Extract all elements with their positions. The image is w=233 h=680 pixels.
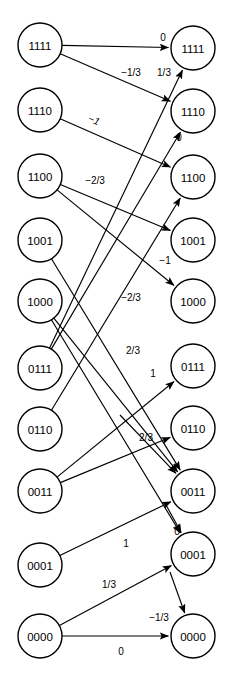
node-r-0111[interactable]: 0111: [171, 344, 215, 388]
edge-weight-label: 1: [150, 368, 156, 379]
node-label: 1100: [28, 171, 53, 183]
node-label: 1110: [28, 105, 52, 117]
edge-weight-label: −2/3: [85, 175, 105, 186]
node-r-0110[interactable]: 0110: [171, 406, 215, 450]
node-label: 0001: [180, 549, 206, 561]
edge-weight-label: −2/3: [121, 292, 141, 303]
edge-weight-label: 0: [160, 32, 166, 43]
edge-R6_src-to-R7: [120, 415, 176, 473]
node-label: 0111: [181, 361, 205, 373]
edge-L4-to-R8: [51, 320, 180, 533]
node-label: 0111: [28, 363, 52, 375]
node-r-1100[interactable]: 1100: [171, 155, 215, 199]
edge-weight-label: −1/3: [121, 67, 141, 78]
edge-weight-label: 1/3: [102, 579, 116, 590]
edge-L7-to-R5: [57, 382, 174, 478]
edge-R8_src-to-R9: [170, 572, 185, 613]
edge-L7-to-R6: [60, 437, 170, 482]
node-r-1110[interactable]: 1110: [171, 89, 215, 133]
node-l-1110[interactable]: 1110: [18, 88, 62, 132]
edge-weight-label: 1/3: [157, 67, 171, 78]
node-l-1000[interactable]: 1000: [18, 279, 62, 323]
node-label: 1001: [180, 235, 206, 247]
node-r-1111[interactable]: 1111: [171, 26, 215, 70]
edge-layer: [49, 45, 184, 636]
edge-L3-to-R7: [51, 259, 180, 470]
node-l-1001[interactable]: 1001: [18, 218, 62, 262]
edge-weight-label: 1: [123, 538, 129, 549]
node-label: 1110: [181, 106, 205, 118]
node-l-0110[interactable]: 0110: [18, 407, 62, 451]
edge-L4-to-R7: [54, 318, 178, 472]
node-r-0000[interactable]: 0000: [171, 614, 215, 658]
node-label: 1001: [27, 235, 53, 247]
edge-L0-to-R0: [62, 45, 169, 47]
node-r-1000[interactable]: 1000: [171, 279, 215, 323]
edge-L1-to-R2: [60, 119, 170, 167]
node-label: 1111: [181, 43, 204, 55]
edge-weight-label: 0: [174, 526, 180, 537]
edge-label-layer: 0−1/3−1−2/3−1−2/31/3012/311/302/30−1/3: [85, 32, 182, 657]
node-label: 0110: [28, 424, 53, 436]
node-label: 0011: [28, 486, 53, 498]
edge-L2-to-R3: [60, 184, 170, 230]
node-l-1100[interactable]: 1100: [18, 154, 62, 198]
node-l-0011[interactable]: 0011: [18, 469, 62, 513]
node-label: 1111: [28, 40, 51, 52]
node-label: 0110: [181, 423, 206, 435]
edge-weight-label: 2/3: [126, 345, 140, 356]
diagram-canvas: 1111111011001001100001110110001100010000…: [0, 0, 233, 680]
edge-weight-label: 0: [118, 646, 124, 657]
edge-L5-to-R1: [51, 132, 180, 349]
node-l-0000[interactable]: 0000: [18, 614, 62, 658]
node-label: 0000: [27, 631, 53, 643]
edge-L5-to-R0: [49, 70, 182, 348]
node-r-0011[interactable]: 0011: [171, 469, 215, 513]
node-label: 0000: [180, 631, 206, 643]
transition-graph: 1111111011001001100001110110001100010000…: [0, 0, 233, 680]
node-l-1111[interactable]: 1111: [18, 23, 62, 67]
node-l-0111[interactable]: 0111: [18, 346, 62, 390]
edge-weight-label: −1/3: [149, 612, 169, 623]
node-label: 0011: [181, 486, 206, 498]
node-label: 1000: [27, 296, 53, 308]
edge-L0-to-R1: [60, 54, 170, 102]
node-r-1001[interactable]: 1001: [171, 218, 215, 262]
node-layer: 1111111011001001100001110110001100010000…: [18, 23, 215, 658]
node-l-0001[interactable]: 0001: [18, 543, 62, 587]
edge-L8-to-R7: [60, 502, 171, 556]
edge-weight-label: −1: [159, 255, 171, 266]
node-label: 1000: [180, 296, 206, 308]
edge-weight-label: −1: [87, 113, 102, 128]
node-r-0001[interactable]: 0001: [171, 532, 215, 576]
node-label: 0001: [27, 560, 53, 572]
edge-weight-label: 0: [176, 132, 182, 143]
edge-weight-label: 2/3: [139, 432, 153, 443]
node-label: 1100: [181, 172, 206, 184]
